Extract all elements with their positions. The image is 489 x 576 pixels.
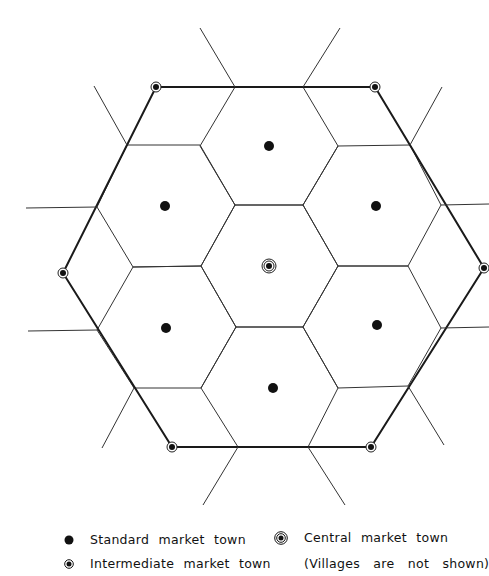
legend-note: (Villages are not shown) [304,556,489,571]
ringed-dot-icon [64,559,74,569]
double-ringed-dot-icon [274,531,288,545]
legend-standard-label: Standard market town [90,532,246,547]
standard-town-dot [264,141,274,151]
intermediate-town-marker [151,82,161,92]
standard-town-dot [161,323,171,333]
filled-dot-icon [64,535,74,545]
legend-intermediate-label: Intermediate market town [90,556,271,571]
standard-town-dot [268,383,278,393]
legend-central: Central market town [274,530,448,545]
spur-lines [26,28,489,505]
intermediate-town-marker [167,442,177,452]
intermediate-town-marker [479,263,489,273]
central-town-marker [262,259,276,273]
intermediate-town-marker [370,82,380,92]
standard-town-dot [372,320,382,330]
intermediate-town-marker [58,268,68,278]
legend-intermediate: Intermediate market town [64,556,271,571]
intermediate-town-marker [366,442,376,452]
legend: Standard market town Intermediate market… [0,528,489,576]
legend-central-label: Central market town [304,530,448,545]
standard-town-dot [371,201,381,211]
legend-standard: Standard market town [64,532,246,547]
standard-town-dot [160,201,170,211]
market-hierarchy-diagram [0,0,489,520]
